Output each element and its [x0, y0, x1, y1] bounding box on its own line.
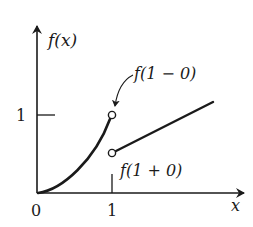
open-point-left-limit: [108, 111, 115, 118]
right-limit-label: f(1 + 0): [119, 161, 182, 180]
curve-left-branch: [38, 119, 110, 193]
x-axis-label: x: [231, 196, 240, 215]
left-limit-label: f(1 − 0): [133, 64, 196, 83]
open-point-right-limit: [108, 149, 115, 156]
origin-label: 0: [31, 201, 41, 220]
y-axis-label: f(x): [46, 30, 77, 50]
annotation-arrow: [115, 75, 133, 106]
y-tick-label: 1: [16, 106, 26, 125]
x-tick-label: 1: [107, 201, 117, 220]
function-graph: f(x) x 0 1 1 f(1 − 0) f(1 + 0): [0, 0, 253, 227]
line-right-branch: [116, 102, 213, 151]
